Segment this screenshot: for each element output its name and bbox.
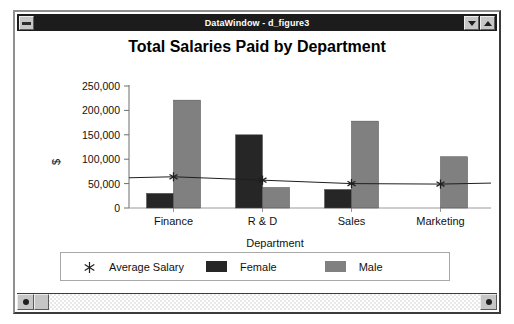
bar-male-finance [174, 100, 201, 208]
y-tick-label: 200,000 [82, 104, 120, 116]
scrollbar-track[interactable] [34, 294, 480, 310]
chart-client-area: Total Salaries Paid by Department 050,00… [17, 31, 497, 290]
legend-label-female: Female [240, 261, 277, 273]
bar-female-r-d [236, 135, 263, 208]
average-salary-markers [169, 172, 444, 189]
legend-swatch-male [325, 261, 346, 272]
chart-legend: Average Salary Female Male [60, 252, 450, 281]
plot-area: 050,000100,000150,000200,000250,000 Fina… [17, 31, 497, 253]
scroll-right-glyph [486, 299, 492, 305]
title-bar[interactable]: DataWindow - d_figure3 [17, 14, 497, 31]
y-tick-label: 250,000 [82, 80, 120, 92]
scroll-left-icon[interactable] [17, 294, 34, 310]
legend-item-female: Female [206, 261, 277, 273]
datawindow-window: DataWindow - d_figure3 Total Salaries Pa… [13, 10, 501, 314]
x-tick-label: Finance [154, 215, 193, 227]
window-title: DataWindow - d_figure3 [17, 18, 497, 28]
x-tick-label: Marketing [416, 215, 464, 227]
bar-female-sales [325, 189, 352, 208]
x-axis-title: Department [246, 237, 303, 249]
y-tick-label: 150,000 [82, 129, 120, 141]
triangle-up-glyph [484, 21, 492, 26]
average-salary-polyline [174, 177, 441, 184]
chart-svg: 050,000100,000150,000200,000250,000 Fina… [17, 31, 497, 253]
scrollbar-thumb[interactable] [34, 294, 49, 310]
minimize-triangle-down-icon[interactable] [464, 16, 479, 30]
legend-label-male: Male [359, 261, 383, 273]
maximize-triangle-up-icon[interactable] [480, 16, 495, 30]
asterisk-marker-icon [83, 260, 96, 273]
bar-female-finance [147, 193, 174, 208]
scroll-left-glyph [23, 299, 29, 305]
x-tick-label: R & D [248, 215, 277, 227]
y-axis-ticks: 050,000100,000150,000200,000250,000 [82, 80, 129, 214]
legend-swatch-female [206, 261, 227, 272]
x-axis-category-labels: FinanceR & DSalesMarketing [154, 215, 465, 227]
triangle-down-glyph [468, 21, 476, 26]
y-axis-title: $ [50, 159, 62, 165]
horizontal-scrollbar[interactable] [17, 293, 497, 310]
bar-series-group [147, 100, 468, 208]
bar-male-sales [352, 121, 379, 208]
legend-label-average-salary: Average Salary [109, 261, 184, 273]
scroll-right-icon[interactable] [480, 294, 497, 310]
bar-male-r-d [263, 188, 290, 208]
y-tick-label: 0 [114, 202, 120, 214]
x-axis-line [129, 208, 491, 212]
legend-item-average-salary: Average Salary [83, 260, 184, 273]
y-tick-label: 100,000 [82, 153, 120, 165]
y-tick-label: 50,000 [88, 178, 120, 190]
legend-item-male: Male [325, 261, 383, 273]
x-tick-label: Sales [338, 215, 366, 227]
